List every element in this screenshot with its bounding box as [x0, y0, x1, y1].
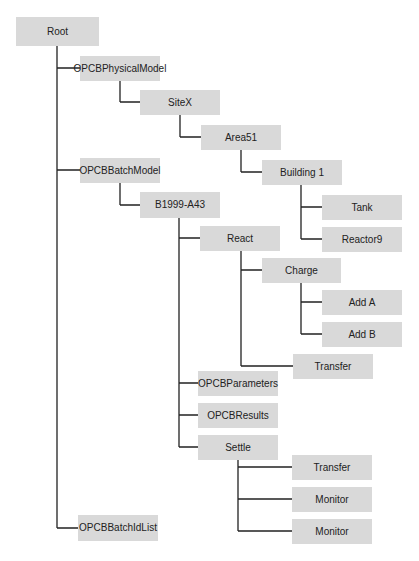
node-label: Root — [47, 27, 68, 37]
node-label: Add A — [349, 298, 376, 308]
node-label: React — [227, 234, 253, 244]
tree-node-settle-transfer[interactable]: Transfer — [292, 455, 372, 480]
node-label: Monitor — [315, 495, 348, 505]
tree-node-area51[interactable]: Area51 — [201, 125, 281, 150]
node-label: OPCBPhysicalModel — [74, 64, 167, 74]
node-label: OPCBBatchModel — [79, 166, 160, 176]
connector-building1 — [301, 185, 322, 239]
node-label: OPCBBatchIdList — [79, 523, 157, 533]
node-label: Building 1 — [280, 168, 324, 178]
node-label: Monitor — [315, 527, 348, 537]
connector-sitex — [180, 115, 201, 137]
node-label: Transfer — [315, 362, 352, 372]
node-label: Area51 — [225, 133, 257, 143]
tree-node-batch-model[interactable]: OPCBBatchModel — [80, 158, 160, 183]
tree-node-b1999-a43[interactable]: B1999-A43 — [140, 192, 220, 218]
tree-diagram: RootOPCBPhysicalModelSiteXArea51Building… — [0, 0, 419, 561]
tree-node-react-transfer[interactable]: Transfer — [293, 354, 373, 379]
tree-node-tank[interactable]: Tank — [322, 195, 402, 220]
connector-physical-model — [120, 81, 140, 102]
tree-node-building1[interactable]: Building 1 — [262, 160, 342, 185]
tree-node-physical-model[interactable]: OPCBPhysicalModel — [80, 56, 160, 81]
connector-charge — [301, 283, 322, 334]
node-label: Settle — [225, 443, 251, 453]
node-label: B1999-A43 — [155, 200, 205, 210]
tree-node-add-a[interactable]: Add A — [322, 290, 402, 315]
tree-node-results[interactable]: OPCBResults — [198, 403, 278, 428]
connector-b1999-a43 — [179, 218, 200, 447]
tree-node-sitex[interactable]: SiteX — [140, 90, 220, 115]
node-label: Charge — [285, 266, 318, 276]
connector-root — [57, 46, 80, 528]
connector-settle — [238, 460, 292, 531]
connector-batch-model — [120, 183, 140, 205]
tree-node-react[interactable]: React — [200, 226, 280, 251]
node-label: OPCBResults — [207, 411, 269, 421]
tree-node-monitor-2[interactable]: Monitor — [292, 519, 372, 544]
tree-node-monitor-1[interactable]: Monitor — [292, 487, 372, 512]
node-label: Transfer — [314, 463, 351, 473]
connector-area51 — [241, 150, 262, 172]
tree-node-charge[interactable]: Charge — [262, 258, 341, 283]
tree-node-reactor9[interactable]: Reactor9 — [322, 227, 402, 252]
node-label: OPCBParameters — [198, 379, 278, 389]
node-label: SiteX — [168, 98, 192, 108]
tree-node-settle[interactable]: Settle — [198, 435, 278, 460]
tree-node-add-b[interactable]: Add B — [322, 322, 402, 347]
node-label: Add B — [348, 330, 375, 340]
node-label: Reactor9 — [342, 235, 383, 245]
tree-node-parameters[interactable]: OPCBParameters — [198, 371, 278, 396]
tree-node-root[interactable]: Root — [16, 17, 99, 46]
node-label: Tank — [351, 203, 372, 213]
tree-node-batch-id-list[interactable]: OPCBBatchIdList — [78, 515, 158, 541]
